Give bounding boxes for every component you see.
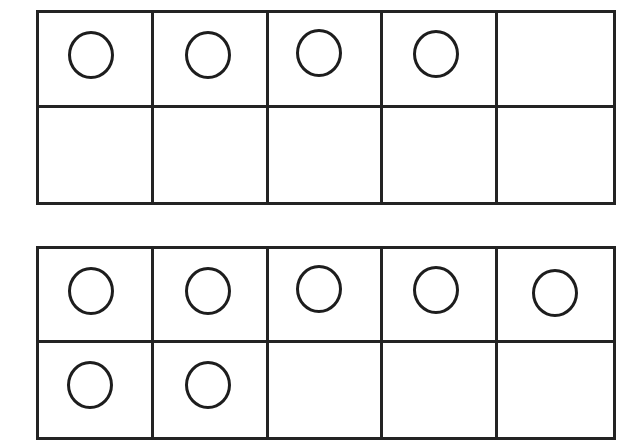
worksheet-canvas [0,0,644,445]
ten-frame-1-cell-r2c4[interactable] [383,108,498,203]
ten-frame-2-cell-r1c4[interactable] [383,249,498,343]
ten-frame-2-cell-r1c1[interactable] [39,249,154,343]
ten-frame-1-cell-r2c3[interactable] [269,108,384,203]
ten-frame-2-cell-r2c5[interactable] [498,343,613,437]
ten-frame-1 [36,10,616,205]
counter-circle [185,31,231,79]
ten-frame-2-cell-r1c2[interactable] [154,249,269,343]
counter-circle [296,265,342,313]
counter-circle [296,29,342,77]
ten-frame-2-cell-r2c1[interactable] [39,343,154,437]
counter-circle [68,267,114,315]
ten-frame-2-cell-r2c2[interactable] [154,343,269,437]
ten-frame-2-cell-r1c3[interactable] [269,249,384,343]
counter-circle [68,31,114,79]
ten-frame-1-cell-r2c2[interactable] [154,108,269,203]
ten-frame-2 [36,246,616,440]
ten-frame-1-cell-r2c1[interactable] [39,108,154,203]
counter-circle [532,269,578,317]
ten-frame-2-cell-r1c5[interactable] [498,249,613,343]
counter-circle [413,30,459,78]
ten-frame-2-cell-r2c3[interactable] [269,343,384,437]
ten-frame-1-cell-r1c3[interactable] [269,13,384,108]
counter-circle [185,361,231,409]
ten-frame-1-cell-r1c5[interactable] [498,13,613,108]
counter-circle [185,267,231,315]
ten-frame-1-cell-r1c4[interactable] [383,13,498,108]
ten-frame-1-cell-r2c5[interactable] [498,108,613,203]
counter-circle [67,361,113,409]
ten-frame-2-cell-r2c4[interactable] [383,343,498,437]
counter-circle [413,266,459,314]
ten-frame-1-cell-r1c1[interactable] [39,13,154,108]
ten-frame-1-cell-r1c2[interactable] [154,13,269,108]
